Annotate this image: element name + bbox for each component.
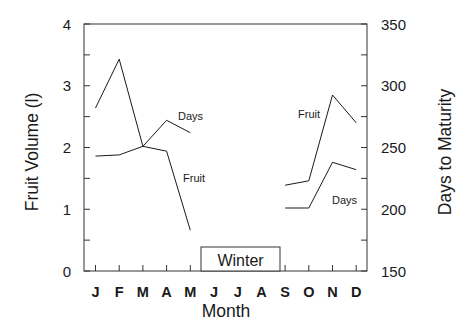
series-label-days-first: Days: [178, 110, 204, 122]
series-line-fruit: [285, 95, 356, 185]
month-label: J: [210, 284, 218, 300]
plot-frame: [84, 24, 367, 271]
month-label: A: [256, 284, 267, 300]
right-axis-tick-labels: 150200250300350: [381, 16, 406, 280]
x-axis-tick-labels: JFMAMJJASOND: [91, 284, 361, 300]
series-label-fruit-second: Fruit: [298, 108, 320, 120]
month-label: N: [327, 284, 337, 300]
right-tick-label: 200: [381, 201, 406, 218]
month-label: A: [161, 284, 172, 300]
left-tick-label: 4: [63, 16, 71, 33]
left-tick-label: 0: [63, 263, 71, 280]
month-label: M: [137, 284, 149, 300]
right-tick-label: 300: [381, 77, 406, 94]
month-label: O: [303, 284, 314, 300]
month-label: J: [91, 284, 99, 300]
right-tick-label: 150: [381, 263, 406, 280]
x-axis-title: Month: [202, 301, 251, 321]
month-label: D: [351, 284, 361, 300]
series-label-fruit-first: Fruit: [183, 172, 205, 184]
month-label: S: [280, 284, 290, 300]
month-label: M: [184, 284, 196, 300]
right-axis-ticks: [361, 24, 367, 271]
left-tick-label: 1: [63, 201, 71, 218]
left-axis-title: Fruit Volume (l): [22, 93, 42, 212]
winter-label: Winter: [217, 252, 264, 269]
month-label: J: [234, 284, 242, 300]
series-lines: [96, 59, 357, 230]
left-tick-label: 3: [63, 77, 71, 94]
month-label: F: [115, 284, 124, 300]
left-tick-label: 2: [63, 139, 71, 156]
left-axis-tick-labels: 01234: [63, 16, 71, 280]
series-label-days-second: Days: [332, 194, 358, 206]
dual-axis-line-chart: 01234 150200250300350 JFMAMJJASOND Winte…: [0, 0, 476, 331]
right-tick-label: 250: [381, 139, 406, 156]
left-axis-ticks: [84, 24, 90, 271]
series-line-days: [96, 120, 191, 156]
right-axis-title: Days to Maturity: [435, 89, 455, 216]
right-tick-label: 350: [381, 16, 406, 33]
series-line-fruit: [96, 59, 191, 230]
